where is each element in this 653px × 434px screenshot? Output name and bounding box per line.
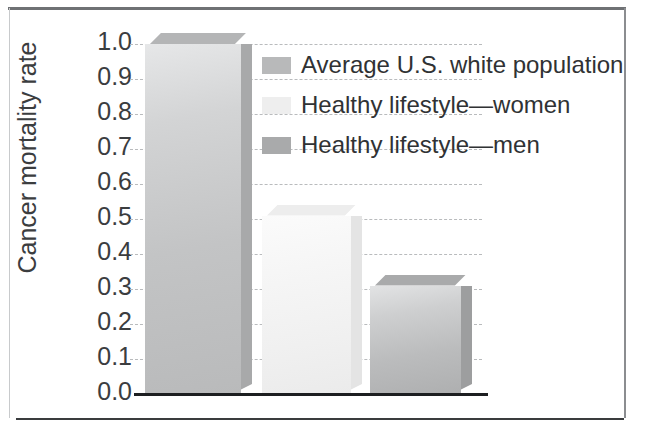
- y-axis-tick-label: 0.6: [46, 167, 132, 196]
- legend-label: Healthy lifestyle—men: [301, 131, 540, 159]
- legend-swatch-icon: [262, 57, 291, 74]
- bar-top-face: [267, 205, 356, 216]
- y-axis-tick-label: 0.2: [46, 307, 132, 336]
- bar-top-face: [375, 275, 466, 286]
- chart-legend: Average U.S. white populationHealthy lif…: [262, 48, 622, 168]
- y-axis-tick-label: 0.5: [46, 202, 132, 231]
- legend-entry-1: Average U.S. white population: [262, 48, 622, 82]
- bar-side-face: [461, 286, 472, 390]
- bar-1: [145, 44, 241, 394]
- legend-entry-2: Healthy lifestyle—women: [262, 88, 622, 122]
- legend-entry-3: Healthy lifestyle—men: [262, 128, 622, 162]
- bar-front-face: [370, 286, 461, 395]
- y-axis-tick-label: 0.1: [46, 342, 132, 371]
- y-axis-tick-label: 0.9: [46, 62, 132, 91]
- y-axis-tick-label: 0.4: [46, 237, 132, 266]
- bar-side-face: [241, 44, 252, 390]
- bar-front-face: [262, 216, 351, 395]
- legend-swatch-icon: [262, 137, 291, 154]
- y-axis-tick-label: 0.8: [46, 97, 132, 126]
- bar-top-face: [150, 33, 246, 44]
- bar-side-face: [351, 216, 362, 390]
- bar-front-face: [145, 44, 241, 394]
- y-axis-tick-label: 0.7: [46, 132, 132, 161]
- y-axis-tick-label: 0.0: [46, 377, 132, 406]
- legend-label: Average U.S. white population: [301, 51, 623, 79]
- y-axis-tick-label: 1.0: [46, 27, 132, 56]
- legend-swatch-icon: [262, 97, 291, 114]
- y-axis-tick-label: 0.3: [46, 272, 132, 301]
- x-axis-line: [134, 393, 488, 396]
- legend-label: Healthy lifestyle—women: [301, 91, 570, 119]
